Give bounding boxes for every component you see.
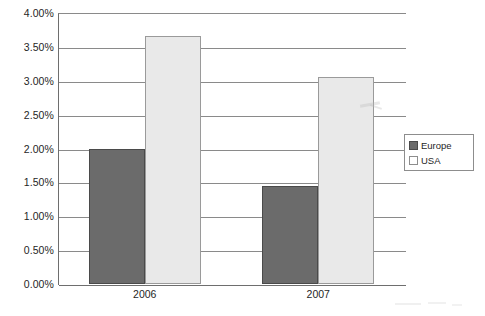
y-axis-tick-label: 0.50%	[2, 245, 54, 256]
bar-usa-2007	[318, 77, 374, 284]
scan-artifact	[452, 304, 462, 306]
legend-swatch-icon	[409, 141, 418, 150]
bar-europe-2006	[89, 149, 145, 285]
x-axis: 2006 2007	[58, 288, 405, 308]
y-axis-tick-label: 1.00%	[2, 211, 54, 222]
legend-item-usa: USA	[409, 153, 469, 168]
x-axis-tick-label: 2007	[278, 288, 358, 300]
x-axis-baseline	[59, 285, 406, 286]
scan-artifact	[428, 302, 446, 304]
bars-layer	[58, 13, 405, 284]
legend-label: USA	[421, 156, 441, 166]
y-axis: 4.00% 3.50% 3.00% 2.50% 2.00% 1.50% 1.00…	[0, 13, 54, 284]
bar-chart: 4.00% 3.50% 3.00% 2.50% 2.00% 1.50% 1.00…	[0, 0, 485, 316]
bar-usa-2006	[145, 36, 201, 284]
y-axis-tick-label: 2.50%	[2, 110, 54, 121]
y-axis-tick-label: 4.00%	[2, 8, 54, 19]
x-axis-tick-label: 2006	[105, 288, 185, 300]
y-axis-tick-label: 2.00%	[2, 144, 54, 155]
legend: Europe USA	[404, 134, 474, 171]
legend-label: Europe	[421, 141, 452, 151]
bar-europe-2007	[262, 186, 318, 284]
y-axis-tick-label: 3.00%	[2, 76, 54, 87]
y-axis-tick-label: 3.50%	[2, 42, 54, 53]
legend-item-europe: Europe	[409, 138, 469, 153]
y-axis-tick-label: 1.50%	[2, 177, 54, 188]
y-axis-tick-label: 0.00%	[2, 279, 54, 290]
legend-swatch-icon	[409, 156, 418, 165]
